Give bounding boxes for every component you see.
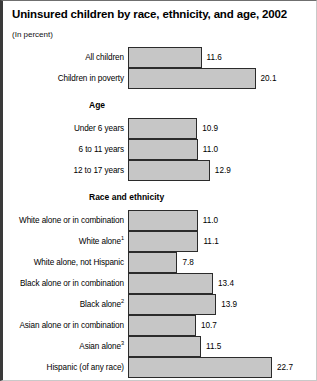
group-header-age: Age: [3, 98, 316, 112]
bar[interactable]: [128, 273, 213, 294]
bar-row[interactable]: White alone111.1: [3, 231, 316, 252]
bar-row[interactable]: All children11.6: [3, 47, 316, 68]
bar-track: 22.7: [129, 357, 316, 378]
bar-track: 10.9: [129, 118, 316, 139]
bar-track: 13.9: [129, 294, 316, 315]
group-header-race-and-ethnicity: Race and ethnicity: [3, 190, 316, 204]
bar-value-label: 12.9: [210, 160, 231, 181]
bar-row[interactable]: 12 to 17 years12.9: [3, 160, 316, 181]
bar-value-label: 13.9: [216, 294, 237, 315]
chart-figure: Uninsured children by race, ethnicity, a…: [0, 0, 317, 381]
bar[interactable]: [128, 47, 202, 68]
footnote-marker: 2: [121, 298, 124, 304]
bar-value-label: 11.6: [202, 47, 222, 68]
bar-value-label: 22.7: [272, 357, 293, 378]
bar-label: White alone or in combination: [3, 210, 129, 231]
bar-value-label: 11.0: [198, 139, 218, 160]
bar-group: AgeUnder 6 years10.96 to 11 years11.012 …: [3, 98, 316, 181]
bar-label: White alone, not Hispanic: [3, 252, 129, 273]
bar-track: 11.5: [129, 336, 316, 357]
page-title: Uninsured children by race, ethnicity, a…: [12, 8, 308, 22]
bar-list: Under 6 years10.96 to 11 years11.012 to …: [3, 118, 316, 181]
footnote-marker: 3: [121, 340, 124, 346]
bar-value-label: 20.1: [256, 68, 277, 89]
bar-value-label: 13.4: [213, 273, 234, 294]
footnote-marker: 1: [121, 235, 124, 241]
bar-row[interactable]: 6 to 11 years11.0: [3, 139, 316, 160]
bar-row[interactable]: Black alone or in combination13.4: [3, 273, 316, 294]
bar-label: All children: [3, 47, 129, 68]
bar-value-label: 11.1: [198, 231, 218, 252]
bar-label: Asian alone3: [3, 336, 129, 357]
bar-track: 11.6: [129, 47, 316, 68]
group-spacer: [3, 181, 316, 190]
bar-value-label: 10.7: [196, 315, 217, 336]
bar-row[interactable]: Hispanic (of any race)22.7: [3, 357, 316, 378]
bar-row[interactable]: Under 6 years10.9: [3, 118, 316, 139]
bar-track: 7.8: [129, 252, 316, 273]
bar[interactable]: [128, 118, 197, 139]
bar-label: Children in poverty: [3, 68, 129, 89]
bar-row[interactable]: White alone or in combination11.0: [3, 210, 316, 231]
bar-value-label: 11.0: [198, 210, 218, 231]
bar-label: 12 to 17 years: [3, 160, 129, 181]
bar[interactable]: [128, 357, 272, 378]
chart-header: Uninsured children by race, ethnicity, a…: [3, 1, 316, 40]
bar-track: 12.9: [129, 160, 316, 181]
bar-track: 13.4: [129, 273, 316, 294]
bar-value-label: 10.9: [197, 118, 218, 139]
bar[interactable]: [128, 294, 216, 315]
bar-row[interactable]: Children in poverty20.1: [3, 68, 316, 89]
bar[interactable]: [128, 160, 210, 181]
bar[interactable]: [128, 139, 198, 160]
chart-subtitle: (In percent): [12, 30, 308, 40]
bar-group: Race and ethnicityWhite alone or in comb…: [3, 190, 316, 378]
bar-track: 20.1: [129, 68, 316, 89]
bar-row[interactable]: Asian alone311.5: [3, 336, 316, 357]
bar-label: White alone1: [3, 231, 129, 252]
bar-list: All children11.6Children in poverty20.1: [3, 47, 316, 89]
bar[interactable]: [128, 68, 256, 89]
bar-label: Under 6 years: [3, 118, 129, 139]
bar-track: 10.7: [129, 315, 316, 336]
bar-row[interactable]: Asian alone or in combination10.7: [3, 315, 316, 336]
bar-label: Asian alone or in combination: [3, 315, 129, 336]
bar-value-label: 11.5: [201, 336, 221, 357]
bar[interactable]: [128, 315, 196, 336]
chart-plot-area: All children11.6Children in poverty20.1A…: [3, 47, 316, 367]
group-spacer: [3, 89, 316, 98]
bar[interactable]: [128, 336, 201, 357]
bar-label: Hispanic (of any race): [3, 357, 129, 378]
bar[interactable]: [128, 252, 177, 273]
bar-list: White alone or in combination11.0White a…: [3, 210, 316, 378]
bar-track: 11.0: [129, 210, 316, 231]
bar-label: Black alone2: [3, 294, 129, 315]
bar[interactable]: [128, 231, 198, 252]
bar-label: Black alone or in combination: [3, 273, 129, 294]
bar-row[interactable]: Black alone213.9: [3, 294, 316, 315]
bar-label: 6 to 11 years: [3, 139, 129, 160]
bar[interactable]: [128, 210, 198, 231]
bar-value-label: 7.8: [177, 252, 193, 273]
bar-group: All children11.6Children in poverty20.1: [3, 47, 316, 89]
bar-track: 11.0: [129, 139, 316, 160]
bar-row[interactable]: White alone, not Hispanic7.8: [3, 252, 316, 273]
bar-track: 11.1: [129, 231, 316, 252]
